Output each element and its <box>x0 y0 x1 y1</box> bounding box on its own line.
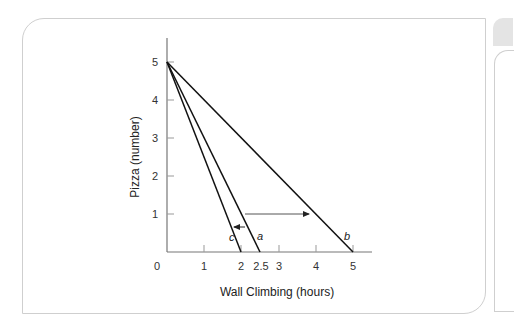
series-label-a: a <box>257 230 263 242</box>
x-tick-label: 4 <box>313 260 319 272</box>
y-tick-label: 1 <box>152 208 158 220</box>
x-tick-label: 3 <box>276 260 282 272</box>
y-axis-title: Pizza (number) <box>128 116 142 197</box>
line-c <box>167 62 241 252</box>
line-a <box>167 62 260 252</box>
series-label-c: c <box>229 231 235 243</box>
x-tick-label: 2 <box>238 260 244 272</box>
y-tick-label: 3 <box>152 132 158 144</box>
x-ticks <box>204 245 353 252</box>
x-tick-label: 2.5 <box>253 260 268 272</box>
x-tick-label: 5 <box>350 260 356 272</box>
y-tick-label: 4 <box>152 94 158 106</box>
series-label-b: b <box>344 230 350 242</box>
y-tick-label: 2 <box>152 170 158 182</box>
y-ticks <box>167 62 174 214</box>
origin-label: 0 <box>154 260 160 272</box>
y-tick-label: 5 <box>152 56 158 68</box>
x-tick-label: 1 <box>201 260 207 272</box>
x-axis-title: Wall Climbing (hours) <box>220 285 334 299</box>
line-b <box>167 62 353 252</box>
